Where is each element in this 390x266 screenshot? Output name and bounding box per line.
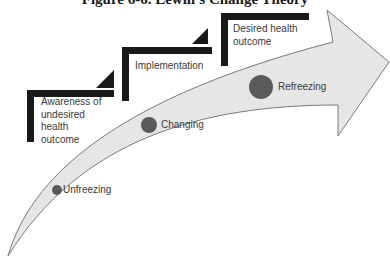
stage-label-changing: Changing [161, 119, 204, 131]
step-label-implementation: Implementation [135, 60, 203, 73]
step-label-line: health [41, 121, 101, 134]
step-label-line: outcome [41, 134, 101, 147]
unfreezing-dot [52, 185, 62, 195]
stage-label-unfreezing: Unfreezing [63, 184, 111, 196]
step-label-awareness: Awareness of undesired health outcome [41, 96, 101, 146]
step-label-line: undesired [41, 109, 101, 122]
step-label-line: Awareness of [41, 96, 101, 109]
step-label-desired-outcome: Desired health outcome [233, 23, 297, 48]
stage-label-refreezing: Refreezing [278, 81, 326, 93]
changing-dot [141, 117, 157, 133]
step-label-line: outcome [233, 36, 297, 49]
refreezing-dot [249, 75, 273, 99]
step-label-line: Desired health [233, 23, 297, 36]
